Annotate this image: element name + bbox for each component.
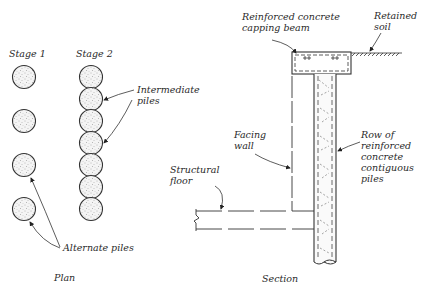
contiguous-pile-wall-diagram: Stage 1 Stage 2 Intermediate piles Alter… (0, 0, 422, 292)
intermediate-piles-label: Intermediate piles (137, 84, 200, 106)
intermediate-piles-arrows (104, 90, 134, 143)
capping-beam (292, 52, 351, 74)
stage2-label: Stage 2 (76, 48, 113, 59)
stage1-label: Stage 1 (9, 48, 46, 59)
stage1-piles (13, 66, 36, 221)
section-title: Section (262, 273, 298, 284)
stage2-piles (80, 66, 103, 221)
ground-line (351, 53, 402, 56)
contiguous-piles-label: Row of reinforced concrete contiguous pi… (361, 129, 414, 184)
alternate-piles-label: Alternate piles (63, 242, 134, 253)
facing-wall-label: Facing wall (234, 129, 266, 151)
retained-soil-label: Retained soil (374, 10, 417, 32)
contiguous-pile-section (314, 74, 336, 264)
plan-title: Plan (54, 272, 75, 283)
structural-floor-label: Structural floor (170, 164, 220, 186)
capping-beam-label: Reinforced concrete capping beam (242, 11, 340, 33)
structural-floor (194, 209, 314, 231)
